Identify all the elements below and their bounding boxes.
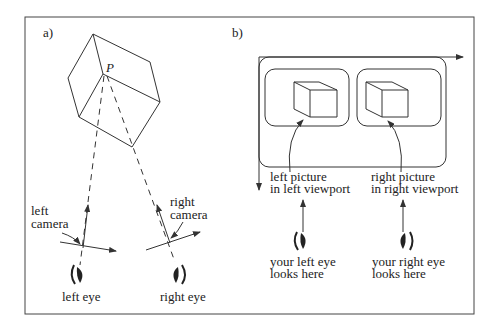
right-eye-label: right eye <box>160 289 206 304</box>
left-camera-label-2: camera <box>31 216 69 231</box>
right-sight-line <box>107 76 175 262</box>
left-picture-label-2: in left viewport <box>270 181 351 196</box>
panel-a: a) P left camera right camera <box>31 25 208 304</box>
right-eye-icon <box>173 265 185 284</box>
screen-window <box>259 57 446 167</box>
left-eye-label: left eye <box>62 289 101 304</box>
right-picture-label-2: in right viewport <box>371 181 459 196</box>
viewer-left-eye-icon <box>295 232 306 250</box>
left-picture-pointer <box>289 120 303 172</box>
point-p-label: P <box>105 60 114 75</box>
panel-a-label: a) <box>43 25 53 40</box>
left-sight-line <box>80 76 104 265</box>
left-eye-icon <box>72 265 83 284</box>
cube-3d <box>68 34 160 147</box>
right-eye-instruction-2: looks here <box>372 266 426 281</box>
stereo-viewing-diagram: a) P left camera right camera <box>0 0 494 331</box>
panel-b: b) left picture in left viewport right p… <box>232 25 463 281</box>
right-viewport-cube <box>366 82 408 117</box>
panel-b-label: b) <box>232 25 243 40</box>
right-picture-pointer <box>388 121 401 172</box>
viewer-right-eye-icon <box>400 232 412 250</box>
left-eye-instruction-2: looks here <box>270 266 324 281</box>
left-viewport-cube <box>294 82 337 117</box>
right-camera-label-2: camera <box>170 207 208 222</box>
